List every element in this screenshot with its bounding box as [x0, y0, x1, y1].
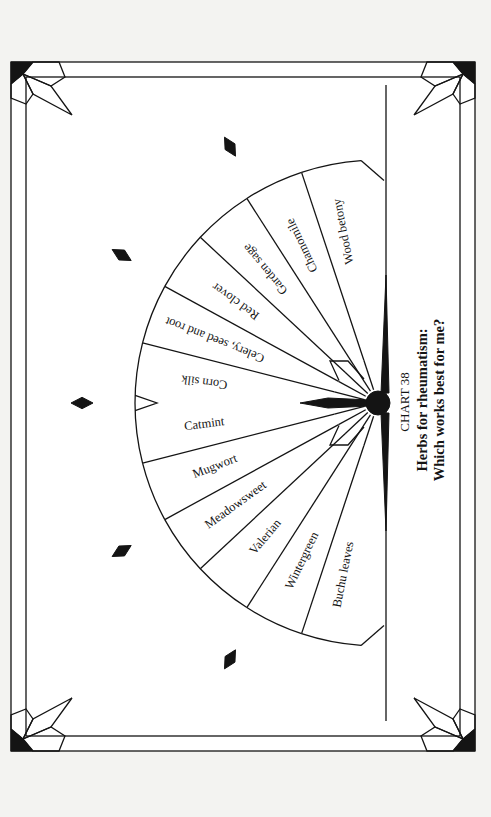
chart-number: CHART 38	[397, 372, 412, 431]
chart-page: Wood betonyChamomileGarden sageRed clove…	[0, 0, 491, 817]
chart-title-line2: Which works best for me?	[431, 319, 447, 481]
chart-illustration: Wood betonyChamomileGarden sageRed clove…	[0, 0, 491, 817]
chart-title-line1: Herbs for rheumatism:	[414, 328, 430, 471]
hub-center-icon	[366, 391, 390, 415]
